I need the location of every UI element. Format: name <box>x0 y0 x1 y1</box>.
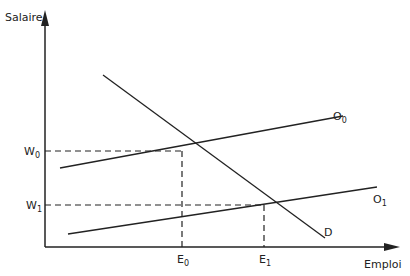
supply-curve-0 <box>60 116 343 168</box>
e1-label: E1 <box>259 253 271 268</box>
demand-label: D <box>324 226 332 239</box>
labour-market-diagram: Salaire Emploi D O0 O1 W0 W1 E0 E1 <box>0 0 410 276</box>
w1-label: W1 <box>26 199 42 214</box>
y-axis-label: Salaire <box>5 11 43 24</box>
x-axis-arrow-icon <box>384 243 400 251</box>
x-axis-label: Emploi <box>364 258 402 271</box>
e0-label: E0 <box>177 253 189 268</box>
w0-label: W0 <box>24 145 40 160</box>
supply-1-label: O1 <box>373 193 387 208</box>
supply-0-label: O0 <box>333 110 347 125</box>
demand-curve <box>103 75 325 238</box>
